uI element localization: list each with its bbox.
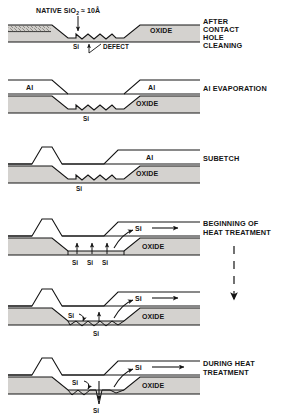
panel-6-oxide-label: OXIDE — [142, 382, 165, 389]
panel-4-si-label-2: Si — [87, 259, 93, 266]
panel-5-oxide-label: OXIDE — [142, 313, 165, 320]
panel-5-si-label-pit: Si — [68, 312, 74, 319]
panel-3-al-label: Al — [146, 154, 153, 161]
panel-5-si-label-film: Si — [135, 295, 142, 302]
panel-2-right-label: Al EVAPORATION — [203, 84, 267, 93]
panel-6-right-line-2: TREATMENT — [203, 368, 249, 377]
panel-2-al-label-right: Al — [148, 84, 155, 91]
figure-background — [0, 0, 291, 418]
panel-1-oxide-label: OXIDE — [150, 27, 173, 34]
panel-2-oxide-label: OXIDE — [136, 100, 159, 107]
panel-3-si-label: Si — [76, 185, 82, 192]
process-cross-section-figure: NATIVE SiO2 ≈ 10Å OXIDE Si DEFECT AFTER … — [0, 0, 291, 418]
panel-1-si-label: Si — [73, 43, 79, 50]
panel-2-si-label: Si — [83, 115, 89, 122]
panel-6-right-label: DURING HEAT TREATMENT — [203, 359, 255, 377]
panel-3-right-label: SUBETCH — [203, 154, 239, 163]
panel-1-right-line-4: CLEANING — [203, 41, 242, 50]
panel-3-oxide-label: OXIDE — [136, 170, 159, 177]
panel-1-defect-label: DEFECT — [103, 43, 129, 50]
panel-4-si-label-3: Si — [102, 259, 108, 266]
panel-6-si-label-bottom: Si — [93, 407, 99, 414]
panel-4-oxide-label: OXIDE — [142, 243, 165, 250]
panel-2-al-label-left: Al — [26, 84, 33, 91]
panel-6-right-line-1: DURING HEAT — [203, 359, 255, 368]
panel-5-si-label-bottom: Si — [93, 330, 99, 337]
panel-6-si-label-pit: Si — [72, 379, 78, 386]
panel-4-right-line-1: BEGINNING OF — [203, 219, 259, 228]
panel-6-si-label-film: Si — [135, 364, 142, 371]
panel-1-native-oxide-hatch — [9, 26, 51, 32]
panel-4-si-label-film: Si — [135, 225, 142, 232]
panel-4-si-label-1: Si — [72, 259, 78, 266]
panel-4-right-line-2: HEAT TREATMENT — [203, 228, 271, 237]
